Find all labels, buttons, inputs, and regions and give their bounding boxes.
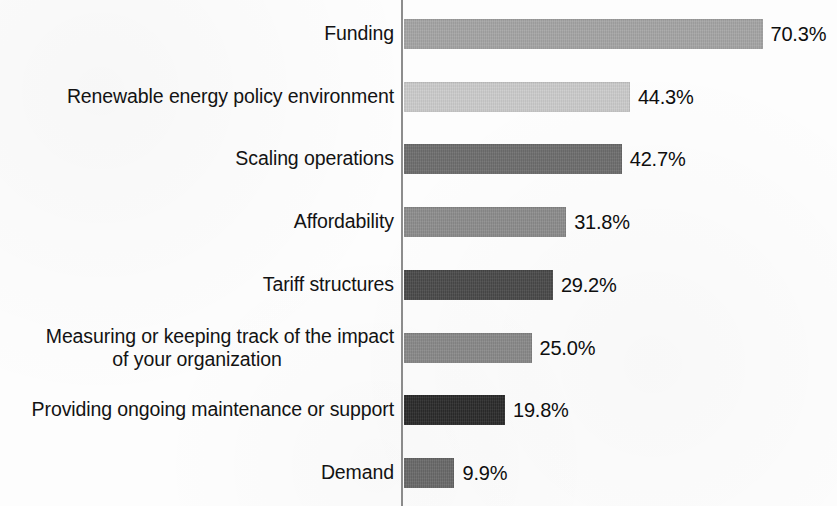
- category-label: Affordability: [0, 210, 394, 233]
- bar-row: Funding70.3%: [0, 19, 837, 49]
- bar-value-label: 31.8%: [574, 209, 630, 235]
- category-label-line: Funding: [324, 22, 394, 44]
- bar: [404, 458, 454, 488]
- bar-value-label: 9.9%: [462, 460, 507, 486]
- category-label-line: Scaling operations: [235, 147, 394, 169]
- bar: [404, 144, 622, 174]
- category-label: Scaling operations: [0, 147, 394, 170]
- category-label: Demand: [0, 461, 394, 484]
- bar-value-label: 70.3%: [771, 21, 827, 47]
- bar: [404, 333, 532, 363]
- category-label-line: Renewable energy policy environment: [67, 85, 394, 107]
- bar-value-label: 44.3%: [638, 84, 694, 110]
- bar-value-label: 25.0%: [540, 335, 596, 361]
- bar-value-label: 42.7%: [630, 146, 686, 172]
- bar-chart: Funding70.3%Renewable energy policy envi…: [0, 0, 837, 506]
- category-label: Tariff structures: [0, 273, 394, 296]
- bar: [404, 82, 630, 112]
- bar-row: Scaling operations42.7%: [0, 144, 837, 174]
- category-label: Providing ongoing maintenance or support: [0, 398, 394, 421]
- bar-value-label: 29.2%: [561, 272, 617, 298]
- bar: [404, 207, 566, 237]
- category-label-line: Measuring or keeping track of the impact: [0, 325, 394, 348]
- category-label-line: of your organization: [0, 348, 394, 371]
- bar: [404, 395, 505, 425]
- category-label-line: Providing ongoing maintenance or support: [32, 398, 394, 420]
- bar-row: Demand9.9%: [0, 458, 837, 488]
- category-label: Measuring or keeping track of the impact…: [0, 325, 394, 371]
- bar-row: Measuring or keeping track of the impact…: [0, 333, 837, 363]
- bar: [404, 270, 553, 300]
- category-label: Funding: [0, 22, 394, 45]
- plot-area: Funding70.3%Renewable energy policy envi…: [0, 0, 837, 506]
- category-label-line: Tariff structures: [263, 273, 394, 295]
- category-label: Renewable energy policy environment: [0, 85, 394, 108]
- bar-row: Renewable energy policy environment44.3%: [0, 82, 837, 112]
- category-label-line: Affordability: [294, 210, 394, 232]
- bar: [404, 19, 763, 49]
- bar-row: Tariff structures29.2%: [0, 270, 837, 300]
- bar-value-label: 19.8%: [513, 397, 569, 423]
- bar-row: Affordability31.8%: [0, 207, 837, 237]
- bar-row: Providing ongoing maintenance or support…: [0, 395, 837, 425]
- category-label-line: Demand: [321, 461, 394, 483]
